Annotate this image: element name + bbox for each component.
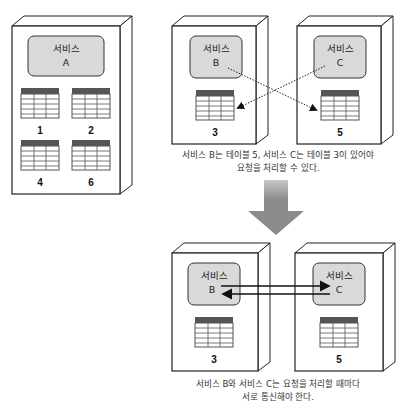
service-b-name: 서비스 xyxy=(201,270,228,281)
table-label-1: 1 xyxy=(37,125,43,136)
server-c-top: 서비스 C 5 xyxy=(297,16,393,144)
caption-top-line2: 요청을 처리할 수 있다. xyxy=(237,162,320,173)
caption-top-line1: 서비스 B는 테이블 5, 서비스 C는 테이블 3이 있어야 xyxy=(182,149,373,160)
server-b-bottom: 서비스 B 3 xyxy=(172,243,270,371)
service-c-name: 서비스 xyxy=(327,43,354,54)
table-icon xyxy=(21,140,59,170)
service-c-name: 서비스 xyxy=(326,270,353,281)
table-icon xyxy=(72,140,110,170)
caption-bottom-line2: 서로 통신해야 한다. xyxy=(242,392,314,402)
table-icon xyxy=(195,317,233,347)
service-a-name: 서비스 xyxy=(53,43,80,54)
server-a: 서비스 A 1 2 4 6 xyxy=(12,16,132,194)
table-icon xyxy=(196,90,234,120)
service-c-id: C xyxy=(337,57,344,68)
table-label-2: 2 xyxy=(88,125,94,136)
down-arrow-icon xyxy=(248,180,304,235)
service-b-id: B xyxy=(213,57,220,68)
service-a-id: A xyxy=(63,57,70,68)
table-label-3: 3 xyxy=(212,127,218,138)
table-icon xyxy=(321,90,359,120)
table-icon xyxy=(21,88,59,118)
service-b-id: B xyxy=(209,284,216,295)
table-label-5: 5 xyxy=(337,127,343,138)
service-c-id: C xyxy=(336,284,343,295)
server-c-bottom: 서비스 C 5 xyxy=(295,243,395,371)
service-b-name: 서비스 xyxy=(203,43,230,54)
service-a-box xyxy=(28,36,104,76)
table-icon xyxy=(320,317,358,347)
table-icon xyxy=(72,88,110,118)
table-label-5: 5 xyxy=(336,354,342,365)
table-label-4: 4 xyxy=(37,177,43,188)
caption-bottom-line1: 서비스 B와 서비스 C는 요청을 처리할 때마다 xyxy=(196,378,360,389)
table-label-6: 6 xyxy=(88,177,94,188)
table-label-3: 3 xyxy=(211,354,217,365)
